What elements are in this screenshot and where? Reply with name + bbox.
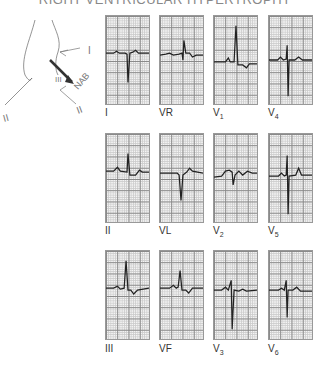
ecg-lead-III	[105, 250, 150, 340]
lead-label-I: I	[105, 107, 108, 118]
ecg-lead-VR	[159, 15, 204, 105]
lead-label-III: III	[105, 343, 113, 354]
lead-label-V6: V6	[268, 343, 279, 356]
lead-label-V1: V1	[213, 107, 224, 120]
svg-text:II: II	[2, 112, 10, 124]
lead-label-VF: VF	[159, 343, 172, 354]
ecg-lead-I	[105, 15, 150, 105]
lead-label-V5: V5	[268, 225, 279, 238]
lead-label-VL: VL	[159, 225, 171, 236]
ecg-lead-V1	[213, 15, 258, 105]
ecg-lead-II	[105, 133, 150, 223]
svg-text:II: II	[75, 104, 84, 116]
ecg-lead-V6	[268, 250, 313, 340]
lead-label-VR: VR	[159, 107, 173, 118]
handwritten-I: I	[88, 45, 91, 56]
lead-label-V4: V4	[268, 107, 279, 120]
svg-text:NAB: NAB	[72, 71, 92, 92]
ecg-lead-V5	[268, 133, 313, 223]
ecg-lead-VF	[159, 250, 204, 340]
lead-label-V3: V3	[213, 343, 224, 356]
lead-label-V2: V2	[213, 225, 224, 238]
page-title: RIGHT VENTRICULAR HYPERTROPHY	[0, 0, 330, 7]
lead-label-II: II	[105, 225, 111, 236]
ecg-lead-V2	[213, 133, 258, 223]
ecg-lead-VL	[159, 133, 204, 223]
ecg-lead-V4	[268, 15, 313, 105]
svg-text:III: III	[55, 75, 62, 84]
ecg-lead-V3	[213, 250, 258, 340]
heart-axis-sketch: I II NAB III II	[0, 20, 100, 160]
